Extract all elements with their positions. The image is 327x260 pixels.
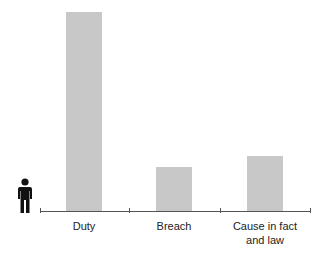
axis-tick bbox=[40, 208, 41, 213]
x-axis bbox=[40, 211, 311, 212]
bar-duty bbox=[66, 12, 102, 211]
label-cause: Cause in fact and law bbox=[220, 219, 310, 247]
axis-tick bbox=[220, 208, 221, 213]
label-cause-line2: and law bbox=[220, 233, 310, 247]
label-cause-line1: Cause in fact bbox=[220, 219, 310, 233]
label-breach: Breach bbox=[129, 219, 219, 233]
label-duty: Duty bbox=[39, 219, 129, 233]
axis-tick bbox=[129, 208, 130, 213]
bar-cause bbox=[247, 156, 283, 211]
bar-breach bbox=[156, 167, 192, 211]
axis-tick bbox=[310, 208, 311, 213]
person-icon bbox=[16, 178, 34, 214]
